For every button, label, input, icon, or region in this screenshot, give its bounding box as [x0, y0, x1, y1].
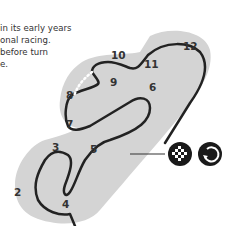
clockwise-direction-icon	[198, 142, 222, 166]
turn-label-4: 4	[62, 198, 69, 210]
turn-label-3: 3	[52, 141, 59, 153]
turn-label-8: 8	[66, 89, 73, 101]
turn-label-7: 7	[66, 118, 73, 130]
checkered-flag-icon	[168, 142, 192, 166]
turn-label-6: 6	[149, 81, 156, 93]
turn-label-9: 9	[110, 76, 117, 88]
turn-label-11: 11	[144, 58, 159, 70]
turn-label-10: 10	[111, 49, 126, 61]
circuit-map: 2 3 4 5 6 7 8 9 10 11 12	[0, 0, 232, 226]
turn-label-12: 12	[183, 40, 198, 52]
turn-label-5: 5	[90, 143, 97, 155]
turn-label-2: 2	[14, 186, 21, 198]
